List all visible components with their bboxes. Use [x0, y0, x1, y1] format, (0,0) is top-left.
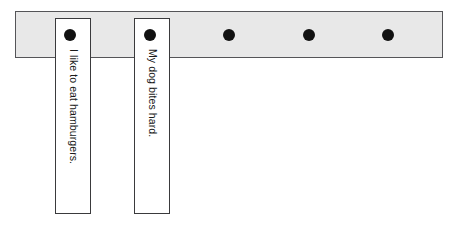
rail-dot-5[interactable]: [382, 29, 394, 41]
rail-dot-4[interactable]: [303, 29, 315, 41]
label-card-2-text-wrap: My dog bites hard.: [135, 49, 171, 209]
rail-dot-1[interactable]: [64, 29, 76, 41]
diagram-canvas: I like to eat hamburgers. My dog bites h…: [0, 0, 457, 238]
label-card-1[interactable]: I like to eat hamburgers.: [55, 18, 91, 214]
label-card-1-text-wrap: I like to eat hamburgers.: [56, 49, 92, 209]
label-card-1-label: I like to eat hamburgers.: [56, 49, 92, 164]
label-card-2[interactable]: My dog bites hard.: [134, 18, 170, 214]
rail-dot-2[interactable]: [144, 29, 156, 41]
rail-dot-3[interactable]: [223, 29, 235, 41]
label-card-2-label: My dog bites hard.: [135, 49, 171, 137]
